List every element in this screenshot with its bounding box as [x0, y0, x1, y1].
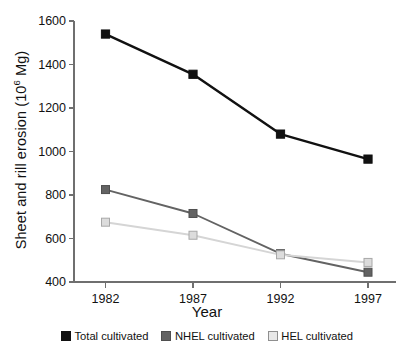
y-axis-tick-label: 1400: [22, 59, 66, 71]
y-axis-tick-label: 1000: [22, 146, 66, 158]
legend-swatch-icon: [268, 331, 278, 341]
axis-lines: [74, 21, 396, 283]
legend-item-hel[interactable]: HEL cultivated: [268, 330, 353, 342]
chart-figure: Sheet and rill erosion (106 Mg) 40060080…: [0, 0, 414, 355]
series-nhel: [102, 186, 373, 277]
legend-item-nhel[interactable]: NHEL cultivated: [161, 330, 254, 342]
legend-item-total[interactable]: Total cultivated: [61, 330, 149, 342]
data-series-layer: [101, 30, 372, 276]
data-point-hel-1997: [364, 258, 372, 266]
legend-swatch-icon: [161, 331, 171, 341]
data-point-total-1987: [189, 70, 197, 78]
y-axis-tick-label: 600: [22, 233, 66, 245]
y-axis-label-exponent: 6: [11, 80, 22, 85]
y-axis-tick-label: 1200: [22, 102, 66, 114]
data-point-total-1997: [364, 155, 372, 163]
x-axis-label: Year: [0, 303, 414, 320]
data-point-nhel-1997: [364, 268, 372, 276]
y-axis-tick-label: 400: [22, 276, 66, 288]
legend-swatch-icon: [61, 331, 71, 341]
chart-legend: Total cultivatedNHEL cultivatedHEL culti…: [0, 330, 414, 342]
data-point-hel-1992: [277, 251, 285, 259]
data-point-nhel-1982: [102, 186, 110, 194]
series-hel: [102, 218, 373, 266]
legend-label: HEL cultivated: [281, 330, 353, 342]
legend-label: NHEL cultivated: [175, 330, 255, 342]
series-line-total: [106, 34, 369, 159]
series-line-hel: [106, 222, 369, 262]
data-point-total-1982: [101, 30, 109, 38]
y-axis-tick-label: 1600: [22, 15, 66, 27]
axis-ticks: [69, 21, 368, 288]
legend-label: Total cultivated: [74, 330, 148, 342]
data-point-hel-1987: [189, 231, 197, 239]
data-point-hel-1982: [102, 218, 110, 226]
series-total: [101, 30, 372, 163]
data-point-total-1992: [276, 130, 284, 138]
data-point-nhel-1987: [189, 209, 197, 217]
y-axis-tick-label: 800: [22, 189, 66, 201]
